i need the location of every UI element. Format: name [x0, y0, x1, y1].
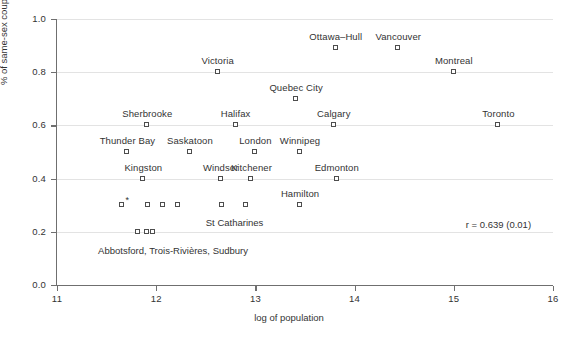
data-point-marker — [331, 122, 336, 127]
data-point-marker — [333, 45, 338, 50]
data-point-marker — [150, 229, 155, 234]
data-point-label: Victoria — [202, 55, 234, 66]
x-axis-title: log of population — [0, 312, 578, 323]
x-tick-label: 14 — [335, 293, 375, 304]
x-tick-label: 12 — [136, 293, 176, 304]
data-point-marker — [218, 176, 223, 181]
data-point-label: Hamilton — [281, 188, 319, 199]
y-axis-line — [56, 19, 57, 285]
data-point-label: Winnipeg — [280, 135, 320, 146]
data-point-label: Sherbrooke — [122, 108, 172, 119]
y-tick-label: 0.0 — [0, 279, 46, 290]
y-tick-label: 0.6 — [0, 119, 46, 130]
asterisk-marker-note: * — [125, 195, 129, 205]
data-point-marker — [297, 202, 302, 207]
data-point-label: Kingston — [124, 162, 162, 173]
data-point-marker — [219, 202, 224, 207]
data-point-marker — [297, 149, 302, 154]
data-point-marker — [243, 202, 248, 207]
scatter-chart-figure: Ottawa–HullVancouverMontrealVictoriaQueb… — [0, 0, 578, 339]
data-point-label: London — [239, 135, 271, 146]
x-tick-label: 11 — [37, 293, 77, 304]
gridline — [57, 72, 553, 73]
x-tick-mark — [255, 286, 256, 291]
data-point-marker — [451, 69, 456, 74]
data-point-marker — [160, 202, 165, 207]
y-tick-mark — [51, 19, 56, 20]
data-point-marker — [395, 45, 400, 50]
x-tick-mark — [156, 286, 157, 291]
y-tick-label: 0.2 — [0, 226, 46, 237]
x-tick-mark — [57, 286, 58, 291]
x-axis-line — [56, 285, 553, 286]
cluster-label: Abbotsford, Trois-Rivières, Sudbury — [98, 245, 248, 256]
data-point-marker — [248, 176, 253, 181]
y-tick-mark — [51, 179, 56, 180]
data-point-label: Quebec City — [269, 82, 322, 93]
data-point-marker — [119, 202, 124, 207]
data-point-marker — [215, 69, 220, 74]
data-point-marker — [144, 122, 149, 127]
data-point-marker — [145, 202, 150, 207]
y-tick-label: 0.4 — [0, 173, 46, 184]
data-point-marker — [135, 229, 140, 234]
data-point-label: Calgary — [317, 108, 350, 119]
data-point-label: Toronto — [482, 108, 514, 119]
data-point-marker — [293, 96, 298, 101]
data-point-label: Vancouver — [375, 31, 421, 42]
correlation-annotation: r = 0.639 (0.01) — [466, 219, 531, 230]
data-point-marker — [124, 149, 129, 154]
gridline — [57, 179, 553, 180]
cluster-label: St Catharines — [206, 217, 264, 228]
y-tick-mark — [51, 232, 56, 233]
data-point-marker — [334, 176, 339, 181]
data-point-marker — [175, 202, 180, 207]
y-tick-mark — [51, 285, 56, 286]
data-point-marker — [495, 122, 500, 127]
data-point-label: Ottawa–Hull — [309, 31, 362, 42]
data-point-label: Saskatoon — [167, 135, 213, 146]
x-tick-mark — [355, 286, 356, 291]
data-point-marker — [252, 149, 257, 154]
x-tick-label: 15 — [434, 293, 474, 304]
x-tick-mark — [553, 286, 554, 291]
data-point-marker — [144, 229, 149, 234]
gridline — [57, 19, 553, 20]
gridline — [57, 125, 553, 126]
data-point-label: Kitchener — [231, 162, 272, 173]
data-point-label: Montreal — [435, 55, 473, 66]
data-point-marker — [140, 176, 145, 181]
gridline — [57, 232, 553, 233]
data-point-marker — [233, 122, 238, 127]
x-tick-label: 16 — [533, 293, 573, 304]
y-tick-mark — [51, 72, 56, 73]
y-axis-title: % of same-sex couples — [0, 0, 9, 96]
y-tick-mark — [51, 125, 56, 126]
data-point-label: Halifax — [221, 108, 251, 119]
plot-area: Ottawa–HullVancouverMontrealVictoriaQueb… — [57, 19, 553, 285]
data-point-marker — [187, 149, 192, 154]
data-point-label: Edmonton — [315, 162, 359, 173]
x-tick-label: 13 — [235, 293, 275, 304]
x-tick-mark — [454, 286, 455, 291]
data-point-label: Thunder Bay — [100, 135, 156, 146]
